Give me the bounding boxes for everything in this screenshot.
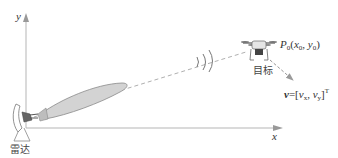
- target-position-label: P0(x0, y0): [279, 38, 320, 52]
- signal-waves-icon: [197, 50, 213, 72]
- radar-beam: [38, 83, 127, 121]
- radar-tracking-diagram: y x 雷达 P0(x0, y0) 目标: [0, 0, 338, 158]
- y-axis-label: y: [15, 10, 21, 22]
- velocity-vector: [270, 60, 293, 80]
- x-axis-label: x: [271, 130, 277, 142]
- y-axis-arrow-icon: [23, 13, 29, 22]
- radar-label: 雷达: [10, 144, 30, 155]
- drone-icon: [241, 41, 277, 60]
- velocity-label: v=[vx, vy]T: [284, 87, 330, 102]
- target-label: 目标: [253, 65, 273, 76]
